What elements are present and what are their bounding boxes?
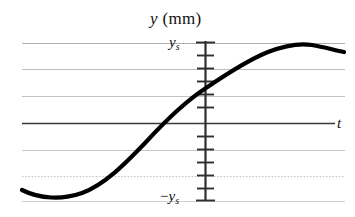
- waveform-curve: [22, 44, 344, 197]
- y-axis-max-label: ys: [169, 35, 180, 52]
- plot-area: [0, 0, 355, 217]
- y-axis-title-unit: (mm): [162, 9, 201, 28]
- y-axis-max-label-var: y: [169, 34, 176, 50]
- y-axis-min-label-sub: s: [175, 195, 179, 206]
- y-axis-max-label-sub: s: [176, 41, 180, 52]
- y-axis-min-label: −ys: [160, 189, 179, 206]
- y-axis-title: y (mm): [150, 10, 201, 27]
- gridlines: [22, 44, 345, 202]
- y-axis-title-var: y: [150, 9, 158, 28]
- waveform-figure: y (mm) ys −ys t: [0, 0, 355, 217]
- t-axis-label: t: [337, 116, 341, 131]
